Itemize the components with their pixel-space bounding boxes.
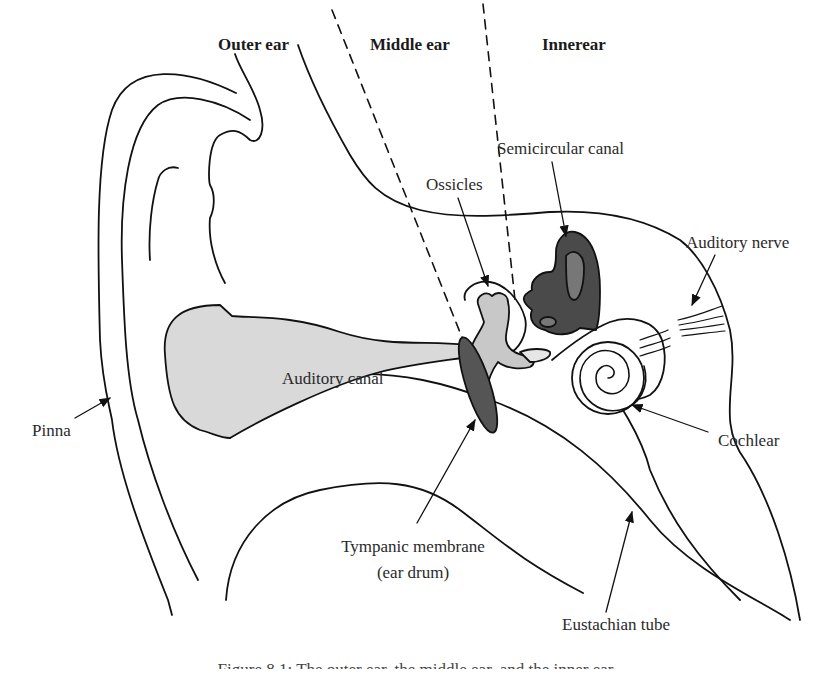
label-ear-drum: (ear drum) xyxy=(310,564,516,581)
canal-lower-contour xyxy=(230,374,790,620)
label-cochlear: Cochlear xyxy=(718,432,779,449)
semicircular-arrow xyxy=(552,162,566,236)
eustachian-arrow xyxy=(606,512,632,612)
cochlear-arrow xyxy=(632,405,708,432)
label-auditory-canal: Auditory canal xyxy=(282,370,384,387)
label-eustachian-tube: Eustachian tube xyxy=(562,616,670,633)
label-ossicles: Ossicles xyxy=(426,176,483,193)
region-label-inner-ear: Innerear xyxy=(542,36,606,53)
label-tympanic-membrane: Tympanic membrane xyxy=(310,538,516,555)
semicircular-canal-shape xyxy=(524,232,600,335)
label-auditory-nerve: Auditory nerve xyxy=(686,234,789,251)
tympanic-arrow xyxy=(417,420,475,523)
antihelix-outline xyxy=(209,54,262,283)
region-label-middle-ear: Middle ear xyxy=(370,36,450,53)
ossicles-arrow xyxy=(458,198,488,286)
region-label-outer-ear: Outer ear xyxy=(218,36,289,53)
label-semicircular-canal: Semicircular canal xyxy=(497,140,624,157)
pinna-arrow xyxy=(75,398,110,418)
label-pinna: Pinna xyxy=(32,422,71,439)
concha-fold xyxy=(149,167,178,260)
ear-anatomy-diagram: Outer ear Middle ear Innerear Semicircul… xyxy=(0,0,831,676)
